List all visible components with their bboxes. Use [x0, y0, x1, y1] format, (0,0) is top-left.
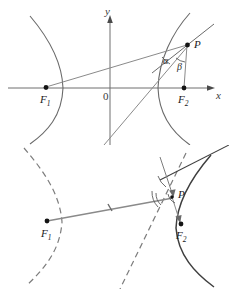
segment-point-p-to-focus2 — [172, 197, 179, 219]
y-axis-label: y — [104, 5, 110, 17]
angle-beta-label: β — [176, 61, 182, 72]
segment-focus2-to-point-p — [184, 45, 187, 88]
focus1-label: F1 — [39, 93, 50, 108]
tangent-line-at-point-p — [160, 145, 229, 180]
focus1-label: F1 — [40, 227, 51, 242]
x-axis-label: x — [215, 89, 221, 101]
tangent-line-at-point-p — [152, 24, 214, 73]
right-hyperbola-branch — [158, 13, 190, 145]
left-hyperbola-branch — [30, 16, 63, 144]
focus2-point-marker — [182, 86, 187, 91]
focus1-point-marker — [44, 85, 49, 90]
x-axis-arrowhead — [207, 85, 215, 91]
focus1-point-marker — [45, 219, 50, 224]
angle-alpha-label: α — [163, 55, 169, 66]
angle-arc-left-inner-at-p — [156, 193, 161, 205]
focus2-label: F2 — [177, 93, 189, 108]
point-p-marker — [170, 195, 174, 199]
origin-label: 0 — [103, 90, 109, 102]
figure-sheet: F1 F2 P 0 y x α β — [0, 0, 229, 289]
point-p-marker — [185, 43, 190, 48]
point-p-label: P — [177, 188, 185, 200]
figure-hyperbola-no-axes: F1 F2 P — [0, 145, 229, 289]
focus2-point-marker — [179, 222, 184, 227]
segment-focus1-to-point-p — [46, 45, 187, 87]
figure-hyperbola-with-axes: F1 F2 P 0 y x α β — [0, 0, 229, 145]
point-p-label: P — [193, 38, 201, 50]
focus2-label: F2 — [175, 229, 187, 244]
left-hyperbola-branch-dashed — [24, 148, 62, 286]
right-hyperbola-branch-solid — [176, 155, 214, 287]
asymptote-line-through-origin — [104, 46, 188, 145]
